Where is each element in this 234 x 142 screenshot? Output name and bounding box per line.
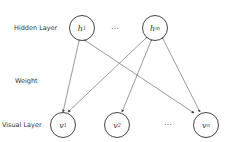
visual-ellipsis: … — [164, 118, 172, 127]
rbm-diagram: Hidden Layer Weight Visual Layer h1 … hm… — [0, 0, 234, 142]
node-vn: vn — [193, 112, 219, 138]
node-v2: v2 — [104, 112, 130, 138]
node-h1: h1 — [69, 15, 95, 41]
visual-layer-label: Visual Layer — [2, 121, 42, 129]
hidden-ellipsis: … — [111, 22, 119, 31]
node-hm: hm — [142, 15, 168, 41]
node-v1: v1 — [50, 112, 76, 138]
hidden-layer-label: Hidden Layer — [14, 24, 57, 32]
weight-label: Weight — [15, 77, 38, 85]
